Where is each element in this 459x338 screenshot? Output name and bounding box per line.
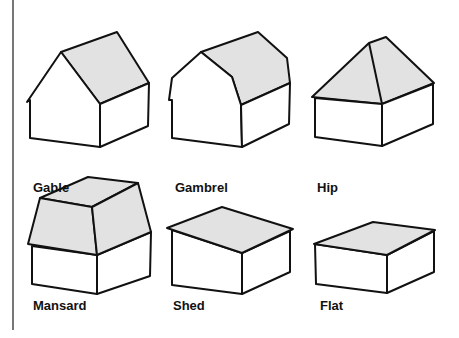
- flat-house-drawing: [314, 222, 435, 293]
- gambrel-label: Gambrel: [175, 180, 228, 195]
- shed-label: Shed: [173, 298, 205, 313]
- hip-house-drawing: [312, 37, 434, 146]
- gambrel-house-drawing: [169, 32, 290, 147]
- flat-label: Flat: [320, 298, 343, 313]
- hip-label: Hip: [317, 180, 338, 195]
- gable-house-drawing: [27, 32, 149, 147]
- shed-house-drawing: [167, 207, 293, 294]
- gable-label: Gable: [33, 180, 69, 195]
- mansard-label: Mansard: [33, 298, 86, 313]
- roof-types-diagram: [0, 0, 459, 338]
